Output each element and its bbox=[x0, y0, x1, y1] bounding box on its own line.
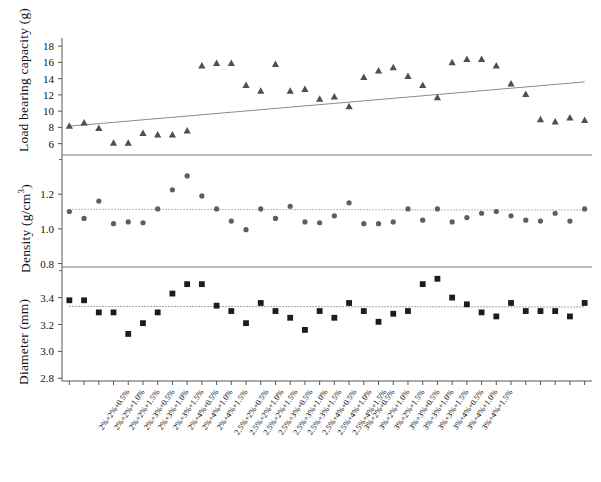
data-point-circle bbox=[479, 211, 484, 216]
data-point-triangle bbox=[66, 122, 73, 128]
data-point-square bbox=[449, 295, 455, 301]
data-point-triangle bbox=[272, 60, 279, 66]
data-point-circle bbox=[81, 216, 86, 221]
trend-line-density bbox=[69, 209, 584, 210]
data-point-triangle bbox=[95, 125, 102, 131]
data-point-square bbox=[125, 331, 131, 337]
data-point-square bbox=[170, 291, 176, 297]
data-point-circle bbox=[435, 206, 440, 211]
data-point-triangle bbox=[198, 62, 205, 68]
data-point-square bbox=[184, 281, 190, 287]
data-point-square bbox=[420, 281, 426, 287]
data-point-circle bbox=[140, 220, 145, 225]
data-point-square bbox=[435, 276, 441, 282]
data-point-circle bbox=[302, 219, 307, 224]
data-point-triangle bbox=[404, 73, 411, 79]
data-point-square bbox=[538, 308, 544, 314]
data-point-square bbox=[228, 308, 234, 314]
data-point-circle bbox=[317, 220, 322, 225]
data-point-square bbox=[331, 315, 337, 321]
data-point-square bbox=[140, 320, 146, 326]
data-point-circle bbox=[288, 204, 293, 209]
data-point-circle bbox=[214, 206, 219, 211]
data-point-triangle bbox=[449, 59, 456, 65]
data-point-triangle bbox=[80, 119, 87, 125]
data-point-square bbox=[376, 319, 382, 325]
data-point-triangle bbox=[345, 103, 352, 109]
data-point-triangle bbox=[331, 93, 338, 99]
data-point-square bbox=[155, 309, 161, 315]
data-point-circle bbox=[243, 227, 248, 232]
data-point-triangle bbox=[184, 127, 191, 133]
data-point-square bbox=[243, 320, 249, 326]
data-point-square bbox=[346, 300, 352, 306]
data-point-circle bbox=[420, 218, 425, 223]
data-point-triangle bbox=[242, 82, 249, 88]
data-point-triangle bbox=[552, 118, 559, 124]
data-point-circle bbox=[111, 221, 116, 226]
data-point-triangle bbox=[287, 87, 294, 93]
data-point-triangle bbox=[537, 116, 544, 122]
data-point-circle bbox=[185, 173, 190, 178]
data-point-square bbox=[199, 281, 205, 287]
data-point-square bbox=[111, 309, 117, 315]
data-point-square bbox=[493, 314, 499, 320]
data-point-triangle bbox=[316, 95, 323, 101]
data-point-square bbox=[302, 327, 308, 333]
data-point-square bbox=[66, 297, 72, 303]
data-point-circle bbox=[332, 213, 337, 218]
data-point-square bbox=[567, 314, 573, 320]
data-point-circle bbox=[96, 198, 101, 203]
data-point-circle bbox=[405, 206, 410, 211]
data-point-square bbox=[479, 309, 485, 315]
data-point-circle bbox=[258, 206, 263, 211]
data-point-circle bbox=[508, 213, 513, 218]
data-point-triangle bbox=[522, 90, 529, 96]
data-point-circle bbox=[567, 218, 572, 223]
data-point-triangle bbox=[375, 67, 382, 73]
data-point-circle bbox=[494, 209, 499, 214]
data-point-triangle bbox=[257, 87, 264, 93]
data-point-circle bbox=[376, 221, 381, 226]
data-point-circle bbox=[346, 200, 351, 205]
data-point-circle bbox=[538, 218, 543, 223]
data-point-triangle bbox=[390, 64, 397, 70]
data-point-circle bbox=[523, 218, 528, 223]
trend-line-diameter bbox=[69, 306, 584, 307]
data-point-square bbox=[523, 308, 529, 314]
data-point-triangle bbox=[360, 73, 367, 79]
data-point-square bbox=[258, 300, 264, 306]
data-point-square bbox=[390, 311, 396, 317]
data-point-square bbox=[361, 308, 367, 314]
data-point-triangle bbox=[213, 60, 220, 66]
data-point-square bbox=[405, 308, 411, 314]
data-point-triangle bbox=[139, 129, 146, 135]
data-point-circle bbox=[67, 209, 72, 214]
data-point-triangle bbox=[228, 60, 235, 66]
data-point-triangle bbox=[566, 114, 573, 120]
data-point-square bbox=[317, 308, 323, 314]
data-point-square bbox=[214, 303, 220, 309]
data-point-square bbox=[552, 308, 558, 314]
data-point-square bbox=[464, 301, 470, 307]
data-point-circle bbox=[361, 221, 366, 226]
data-point-circle bbox=[199, 193, 204, 198]
data-point-triangle bbox=[125, 139, 132, 145]
data-point-triangle bbox=[478, 56, 485, 62]
data-point-triangle bbox=[463, 56, 470, 62]
data-point-square bbox=[582, 300, 588, 306]
data-point-triangle bbox=[154, 131, 161, 137]
data-point-circle bbox=[582, 206, 587, 211]
data-point-circle bbox=[450, 219, 455, 224]
data-point-triangle bbox=[507, 80, 514, 86]
data-point-triangle bbox=[581, 116, 588, 122]
data-point-triangle bbox=[493, 62, 500, 68]
data-point-square bbox=[508, 300, 514, 306]
plot-canvas bbox=[0, 0, 601, 482]
data-point-triangle bbox=[110, 139, 117, 145]
data-point-square bbox=[81, 297, 87, 303]
data-point-circle bbox=[391, 219, 396, 224]
data-point-triangle bbox=[169, 131, 176, 137]
data-point-circle bbox=[553, 211, 558, 216]
data-point-circle bbox=[273, 216, 278, 221]
